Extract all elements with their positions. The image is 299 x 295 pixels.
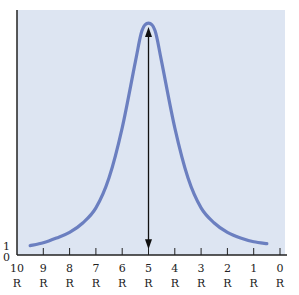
x-tick-label: 8 [66,262,73,275]
x-tick-label: 4 [171,262,178,275]
x-tick-unit-label: R [250,277,259,290]
x-tick-unit-label: R [13,277,22,290]
plot-area [17,10,285,255]
x-tick-unit-label: R [171,277,180,290]
x-tick-unit-label: R [197,277,206,290]
x-tick-label: 1 [250,262,257,275]
x-tick-label: 5 [145,262,152,275]
x-tick-label: 10 [10,262,24,275]
x-tick-label: 3 [198,262,205,275]
x-tick-unit-label: R [92,277,101,290]
x-tick-unit-label: R [39,277,48,290]
x-tick-label: 9 [40,262,47,275]
x-tick-label: 7 [92,262,99,275]
x-tick-unit-label: R [223,277,232,290]
x-tick-label: 6 [119,262,126,275]
x-tick-label: 0 [277,262,284,275]
y-tick-label: 1 [3,240,10,253]
x-tick-unit-label: R [118,277,127,290]
bell-curve-chart: 10R9R8R7R6R5R4R3R2R1R0R 01 [0,0,299,295]
x-tick-unit-label: R [65,277,74,290]
x-tick-unit-label: R [276,277,285,290]
x-tick-unit-label: R [144,277,153,290]
x-tick-label: 2 [224,262,231,275]
